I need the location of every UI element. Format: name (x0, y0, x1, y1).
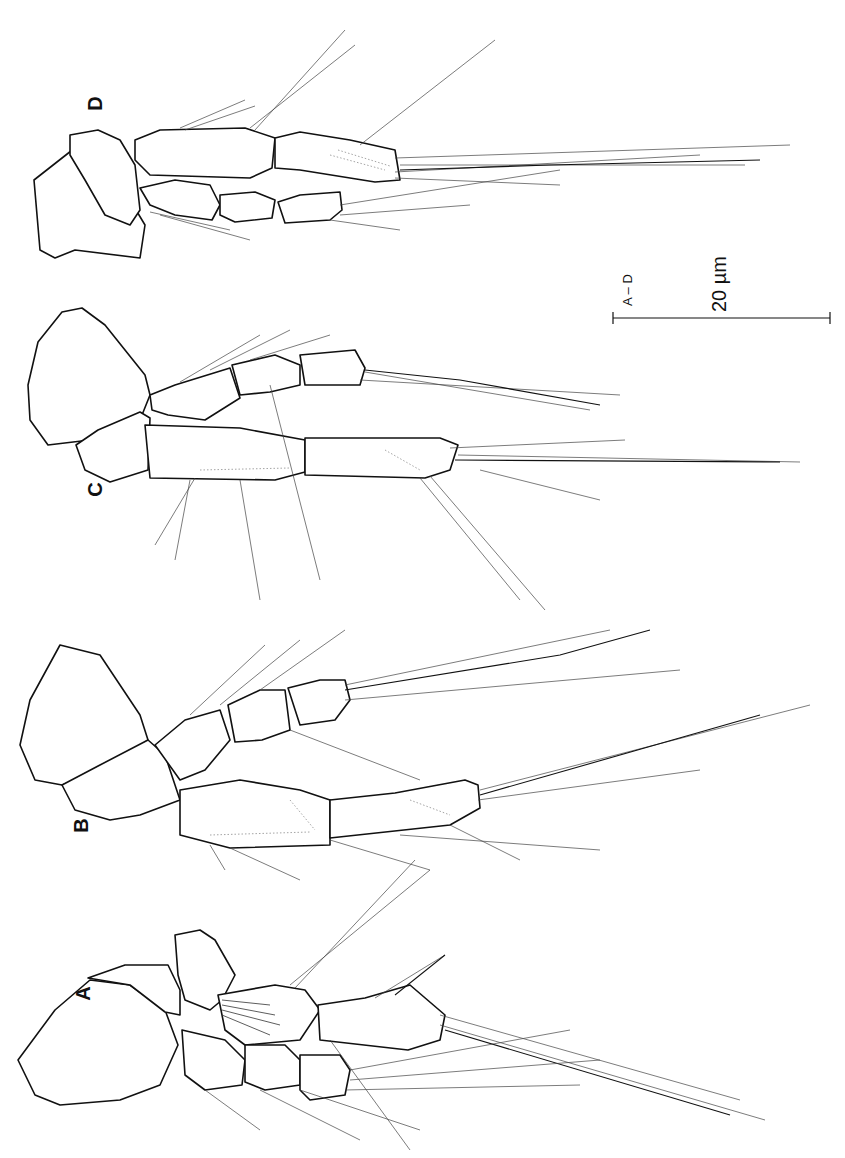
panel-a-drawing (18, 860, 765, 1150)
scale-bar (613, 312, 830, 324)
scale-bar-value-label: 20 µm (708, 256, 731, 312)
panel-label-a: A (72, 986, 95, 1000)
scale-bar-panels-label: A – D (620, 274, 635, 306)
panel-d-drawing (34, 30, 790, 258)
panel-b-drawing (20, 630, 810, 880)
figure: D C B A A – D 20 µm (0, 0, 845, 1158)
panel-label-d: D (84, 96, 107, 110)
panel-c-drawing (28, 308, 800, 610)
panel-label-c: C (84, 482, 107, 496)
panel-label-b: B (70, 818, 93, 832)
figure-drawing (0, 0, 845, 1158)
